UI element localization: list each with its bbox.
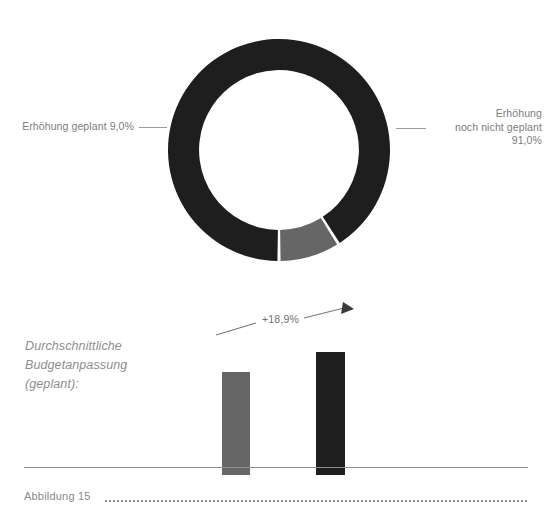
figure-caption: Abbildung 15	[24, 490, 91, 502]
donut-leader-line-left	[139, 127, 167, 128]
donut-label-not-planned-line3: 91,0%	[430, 134, 542, 148]
donut-leader-line-right	[396, 128, 426, 129]
bar-chart-baseline	[24, 467, 528, 468]
donut-label-not-planned-line2: noch nicht geplant	[430, 121, 542, 135]
donut-label-not-planned: Erhöhung noch nicht geplant 91,0%	[430, 107, 542, 148]
donut-label-planned-text: Erhöhung geplant 9,0%	[22, 120, 134, 134]
growth-arrow-label: +18,9%	[262, 313, 299, 325]
bar-planned	[316, 352, 345, 475]
figure-container: Erhöhung geplant 9,0% Erhöhung noch nich…	[0, 0, 552, 513]
caption-dotted-leader	[104, 500, 528, 502]
donut-chart	[158, 29, 400, 271]
donut-segment-not-planned	[168, 39, 390, 261]
bar-current	[222, 372, 250, 475]
donut-label-not-planned-line1: Erhöhung	[430, 107, 542, 121]
donut-label-planned: Erhöhung geplant 9,0%	[22, 120, 134, 134]
